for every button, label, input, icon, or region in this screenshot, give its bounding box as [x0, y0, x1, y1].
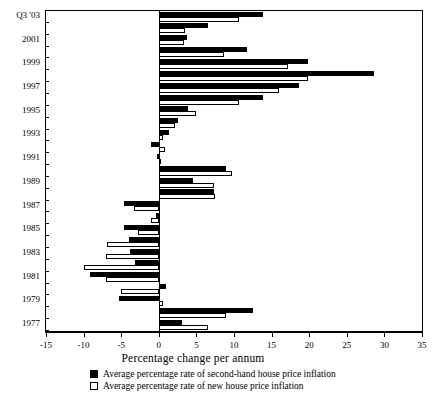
legend-item-second-hand: Average percentage rate of second-hand h… [0, 368, 436, 380]
bar-group [46, 260, 422, 272]
y-axis-label: 1989 [22, 177, 40, 186]
y-axis-tick [45, 164, 49, 165]
x-axis-tick [234, 332, 235, 337]
y-axis-tick [45, 223, 49, 224]
y-axis-tick [45, 247, 49, 248]
bar-group [46, 130, 422, 142]
x-axis-title: Percentage change per annum [0, 352, 436, 364]
y-axis-tick [45, 105, 49, 106]
bar-group [46, 118, 422, 130]
bar-group [46, 189, 422, 201]
y-axis-label: 1977 [22, 319, 40, 328]
bar-new [159, 17, 239, 22]
y-axis-tick [45, 271, 49, 272]
y-axis-label: 1987 [22, 201, 40, 210]
x-axis-tick [46, 332, 47, 337]
y-axis-label: 1981 [22, 272, 40, 281]
legend-label-second-hand: Average percentage rate of second-hand h… [103, 368, 336, 380]
bar-group [46, 248, 422, 260]
x-axis-tick [84, 332, 85, 337]
y-axis-tick [45, 152, 49, 153]
bar-new [159, 52, 224, 57]
bar-group [46, 141, 422, 153]
y-axis-tick [45, 318, 49, 319]
y-axis-tick [45, 117, 49, 118]
y-axis-label: 1997 [22, 82, 40, 91]
bar-new [159, 147, 165, 152]
x-axis-tick [159, 332, 160, 337]
bar-new [159, 64, 288, 69]
bar-group [46, 47, 422, 59]
y-axis-tick [45, 22, 49, 23]
y-axis-tick [45, 93, 49, 94]
y-axis-tick [45, 235, 49, 236]
x-axis-tick [347, 332, 348, 337]
y-axis-tick [45, 283, 49, 284]
bar-group [46, 58, 422, 70]
x-axis-tick-label: -10 [78, 340, 90, 350]
x-axis-title-text: Percentage change per annum [121, 352, 264, 364]
y-axis-label: 1991 [22, 153, 40, 162]
bar-new [159, 135, 163, 140]
bar-group [46, 236, 422, 248]
bar-group [46, 224, 422, 236]
y-axis-tick [45, 330, 49, 331]
y-axis-tick [45, 129, 49, 130]
bar-new [106, 254, 159, 259]
bar-new [159, 301, 164, 306]
y-axis-tick [45, 140, 49, 141]
y-axis-label: Q3 '03 [16, 11, 40, 20]
x-axis-tick-label: 35 [418, 340, 427, 350]
bar-new [134, 206, 159, 211]
bar-new [121, 289, 159, 294]
y-axis-tick [45, 294, 49, 295]
y-axis-tick [45, 259, 49, 260]
bar-group [46, 201, 422, 213]
bar-group [46, 70, 422, 82]
bar-new [159, 325, 208, 330]
y-axis-tick [45, 57, 49, 58]
x-axis-tick-label: 0 [157, 340, 162, 350]
bar-new [159, 111, 196, 116]
bar-new [159, 88, 279, 93]
x-axis-tick-label: 30 [380, 340, 389, 350]
x-axis-tick [309, 332, 310, 337]
bar-group [46, 307, 422, 319]
legend-swatch-black-icon [90, 370, 98, 378]
legend-swatch-white-icon [90, 382, 98, 390]
bar-group [46, 319, 422, 331]
bars-layer [46, 11, 422, 331]
y-axis-tick [45, 34, 49, 35]
y-axis-tick [45, 211, 49, 212]
bar-new [159, 28, 185, 33]
bar-group [46, 284, 422, 296]
bar-group [46, 94, 422, 106]
bar-second-hand [151, 142, 159, 147]
x-axis-tick [384, 332, 385, 337]
bar-new [151, 218, 159, 223]
x-axis-tick-label: -15 [40, 340, 52, 350]
bar-group [46, 23, 422, 35]
y-axis-tick [45, 46, 49, 47]
bar-group [46, 272, 422, 284]
y-axis-labels: 1977197919811983198519871989199119931995… [0, 10, 43, 332]
bar-group [46, 295, 422, 307]
y-axis-tick [45, 188, 49, 189]
y-axis-tick [45, 69, 49, 70]
x-axis-tick [121, 332, 122, 337]
bar-new [107, 242, 159, 247]
bar-new [84, 265, 158, 270]
x-axis-tick-label: 25 [342, 340, 351, 350]
x-axis-tick [196, 332, 197, 337]
bar-new [159, 313, 227, 318]
y-axis-tick [45, 81, 49, 82]
x-axis-tick [422, 332, 423, 337]
legend: Average percentage rate of second-hand h… [0, 368, 436, 392]
bar-group [46, 106, 422, 118]
bar-new [138, 230, 159, 235]
x-axis-tick-label: 15 [267, 340, 276, 350]
y-axis-tick [45, 176, 49, 177]
bar-new [159, 159, 161, 164]
bar-group [46, 165, 422, 177]
y-axis-label: 1985 [22, 224, 40, 233]
